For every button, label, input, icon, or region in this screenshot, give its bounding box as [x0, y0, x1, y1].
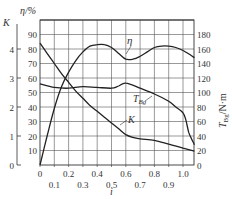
- x-tick-label: 1.0: [177, 169, 189, 179]
- torque-tick-label: 60: [197, 117, 207, 127]
- x-axis-label: i: [110, 186, 113, 197]
- axes: [17, 20, 194, 167]
- eta-tick-label: 20: [28, 132, 38, 142]
- eta-axis-label: η/%: [20, 5, 36, 16]
- eta-tick-label: 50: [28, 88, 38, 98]
- curve-eta: [40, 44, 194, 165]
- x-tick-label: 0.4: [92, 169, 104, 179]
- x-tick-label: 0.3: [77, 180, 89, 190]
- k-curve-label: K: [127, 114, 136, 125]
- torque-tick-label: 80: [197, 103, 207, 113]
- x-tick-label: 0.7: [134, 180, 146, 190]
- k-tick-label: 3: [10, 74, 15, 84]
- k-tick-label: 0: [10, 161, 15, 171]
- grid: [40, 20, 194, 165]
- k-axis-label: K: [2, 17, 11, 28]
- torque-tick-label: 40: [197, 132, 207, 142]
- eta-tick-label: 30: [28, 117, 38, 127]
- torque-tick-label: 180: [197, 30, 211, 40]
- curves: [40, 43, 194, 165]
- eta-tick-label: 40: [28, 103, 38, 113]
- torque-tick-label: 140: [197, 59, 211, 69]
- right-axis-label: TBg/N·m: [217, 93, 230, 128]
- eta-tick-label: 90: [28, 30, 38, 40]
- x-tick-label: 0.2: [63, 169, 74, 179]
- x-tick-label: 0.8: [149, 169, 161, 179]
- torque-tick-label: 20: [197, 146, 207, 156]
- torque-tick-label: 160: [197, 45, 211, 55]
- eta-curve-label: η: [127, 34, 132, 46]
- chart: 1020304050607080900123402040608010012014…: [0, 0, 232, 199]
- curve-k: [40, 43, 194, 151]
- torque-tick-label: 120: [197, 74, 211, 84]
- eta-tick-label: 60: [28, 74, 38, 84]
- eta-tick-label: 70: [28, 59, 38, 69]
- eta-tick-label: 80: [28, 45, 38, 55]
- k-tick-label: 1: [10, 132, 15, 142]
- svg-text:TBg/N·m: TBg/N·m: [217, 93, 230, 128]
- x-tick-label: 0.9: [163, 180, 175, 190]
- x-tick-label: 0.6: [120, 169, 132, 179]
- torque-tick-label: 100: [197, 88, 211, 98]
- torque-tick-label: 0: [197, 161, 202, 171]
- k-tick-label: 2: [10, 103, 15, 113]
- k-tick-label: 4: [10, 45, 15, 55]
- x-tick-label: 0: [38, 169, 43, 179]
- x-tick-label: 0.1: [49, 180, 60, 190]
- eta-tick-label: 10: [28, 146, 38, 156]
